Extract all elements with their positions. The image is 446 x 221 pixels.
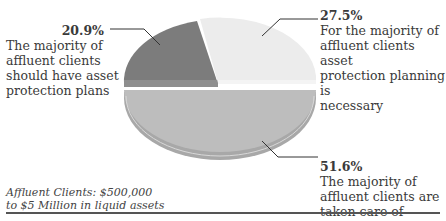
label-line: protection plans [6, 83, 146, 98]
label-line: affluent clients are [320, 189, 446, 204]
label-line: The majority of [320, 174, 446, 189]
chart-caption: Affluent Clients: $500,000 to $5 Million… [6, 186, 164, 212]
caption-line: Affluent Clients: $500,000 [6, 186, 164, 199]
label-line: should have asset [6, 68, 146, 83]
label-line: affluent clients asset [320, 38, 446, 68]
pct-27-5: 27.5% [320, 8, 446, 23]
label-line: affluent clients [6, 53, 146, 68]
slice-51-6 [124, 90, 316, 160]
label-line: necessary [320, 98, 446, 113]
pct-20-9: 20.9% [6, 23, 104, 38]
label-line: For the majority of [320, 23, 446, 38]
slice-27-5 [200, 18, 316, 84]
label-51-6: 51.6% The majority of affluent clients a… [320, 159, 446, 219]
label-line: The majority of [6, 38, 146, 53]
label-27-5: 27.5% For the majority of affluent clien… [320, 8, 446, 113]
pct-51-6: 51.6% [320, 159, 446, 174]
caption-line: to $5 Million in liquid assets [6, 199, 164, 212]
label-line: protection planning is [320, 68, 446, 98]
bottom-rule [6, 212, 440, 214]
label-20-9: 20.9% The majority of affluent clients s… [6, 23, 146, 98]
